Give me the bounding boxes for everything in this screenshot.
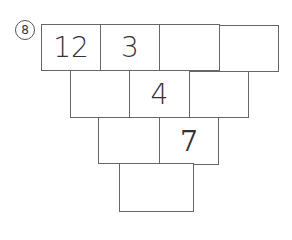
cell-r2-c2[interactable]: 4: [129, 70, 190, 118]
cell-r3-c1[interactable]: [98, 117, 160, 164]
cell-r4-c1[interactable]: [119, 163, 194, 212]
problem-number-label: 8: [15, 20, 35, 40]
cell-r3-c2[interactable]: 7: [159, 117, 219, 165]
cell-r1-c4[interactable]: [219, 25, 279, 72]
cell-r1-c1[interactable]: 12: [41, 24, 101, 71]
cell-r2-c1[interactable]: [70, 70, 130, 118]
cell-r2-c3[interactable]: [189, 71, 249, 118]
cell-r1-c3[interactable]: [159, 24, 220, 71]
cell-r1-c2[interactable]: 3: [100, 24, 160, 71]
